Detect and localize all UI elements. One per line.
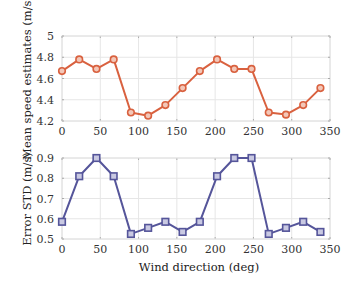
x-tick-label: 150: [166, 243, 187, 256]
data-point-marker: [214, 56, 221, 63]
y-tick-label: 4.6: [37, 73, 55, 86]
data-point-marker: [231, 155, 238, 162]
data-point-marker: [145, 112, 152, 119]
data-point-marker: [248, 66, 255, 73]
data-point-marker: [110, 56, 117, 63]
y-tick-label: 0.5: [37, 233, 55, 246]
data-point-marker: [128, 231, 135, 238]
x-tick-label: 350: [320, 125, 341, 138]
data-point-marker: [76, 56, 83, 63]
error-std-plot: 0501001502002503003500.50.60.70.80.9: [37, 152, 341, 256]
data-point-marker: [300, 218, 307, 225]
y-tick-label: 0.7: [37, 193, 55, 206]
data-point-marker: [93, 66, 100, 73]
mean-speed-plot: 0501001502002503003504.24.44.64.85: [37, 30, 341, 138]
data-point-marker: [197, 218, 204, 225]
x-tick-label: 300: [281, 125, 302, 138]
data-point-marker: [128, 109, 135, 116]
data-point-marker: [93, 155, 100, 162]
data-point-marker: [317, 229, 324, 236]
data-point-marker: [76, 173, 83, 180]
x-tick-label: 300: [281, 243, 302, 256]
data-point-marker: [265, 109, 272, 116]
top-y-axis-label: Mean speed estimates (m/s): [20, 0, 34, 160]
x-tick-label: 250: [243, 243, 264, 256]
x-tick-label: 100: [128, 243, 149, 256]
x-tick-label: 100: [128, 125, 149, 138]
x-tick-label: 0: [59, 125, 66, 138]
chart-figure: 0501001502002503003504.24.44.64.85 05010…: [0, 0, 358, 287]
y-tick-label: 5: [47, 30, 54, 43]
data-point-marker: [231, 66, 238, 73]
data-point-marker: [179, 85, 186, 92]
x-tick-label: 200: [205, 243, 226, 256]
bottom-y-axis-label: Error STD (m/s): [20, 152, 34, 246]
x-tick-label: 250: [243, 125, 264, 138]
data-point-marker: [317, 85, 324, 92]
y-tick-label: 0.6: [37, 213, 55, 226]
x-tick-label: 50: [93, 125, 107, 138]
y-tick-label: 0.8: [37, 172, 55, 185]
data-point-marker: [265, 231, 272, 238]
x-tick-label: 200: [205, 125, 226, 138]
data-point-marker: [283, 111, 290, 118]
data-point-marker: [283, 225, 290, 232]
data-point-marker: [197, 68, 204, 75]
data-point-marker: [59, 68, 66, 75]
y-tick-label: 4.8: [37, 51, 55, 64]
data-point-marker: [300, 102, 307, 109]
data-point-marker: [179, 229, 186, 236]
y-tick-label: 0.9: [37, 152, 55, 165]
x-tick-label: 350: [320, 243, 341, 256]
x-axis-label: Wind direction (deg): [139, 260, 259, 274]
x-tick-label: 50: [93, 243, 107, 256]
data-point-marker: [214, 173, 221, 180]
data-point-marker: [145, 225, 152, 232]
data-point-marker: [110, 173, 117, 180]
x-tick-label: 150: [166, 125, 187, 138]
x-tick-label: 0: [59, 243, 66, 256]
y-tick-label: 4.2: [37, 115, 55, 128]
y-tick-label: 4.4: [37, 94, 55, 107]
data-point-marker: [162, 218, 169, 225]
data-point-marker: [59, 218, 66, 225]
data-point-marker: [162, 102, 169, 109]
data-point-marker: [248, 155, 255, 162]
